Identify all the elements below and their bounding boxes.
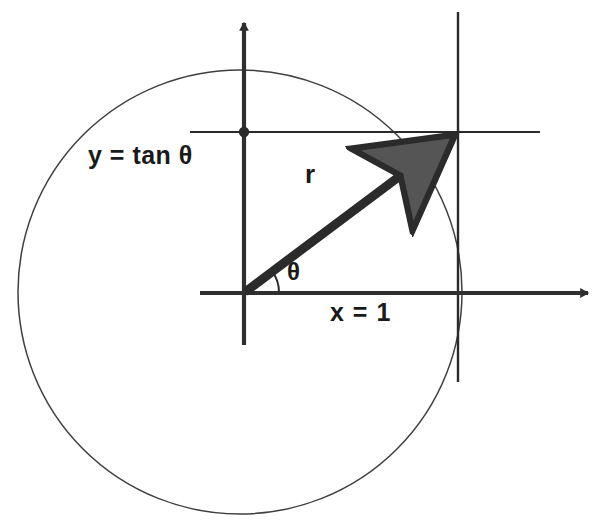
radius-vector (245, 140, 448, 292)
radius-label: r (305, 161, 315, 187)
diagram-canvas (0, 0, 610, 528)
unit-circle-diagram: y = tan θ x = 1 r θ (0, 0, 610, 528)
x-equals-one-label: x = 1 (330, 300, 391, 325)
tangent-height-label: y = tan θ (88, 143, 193, 168)
theta-angle-label: θ (287, 260, 300, 284)
y-intercept-dot (239, 127, 249, 137)
